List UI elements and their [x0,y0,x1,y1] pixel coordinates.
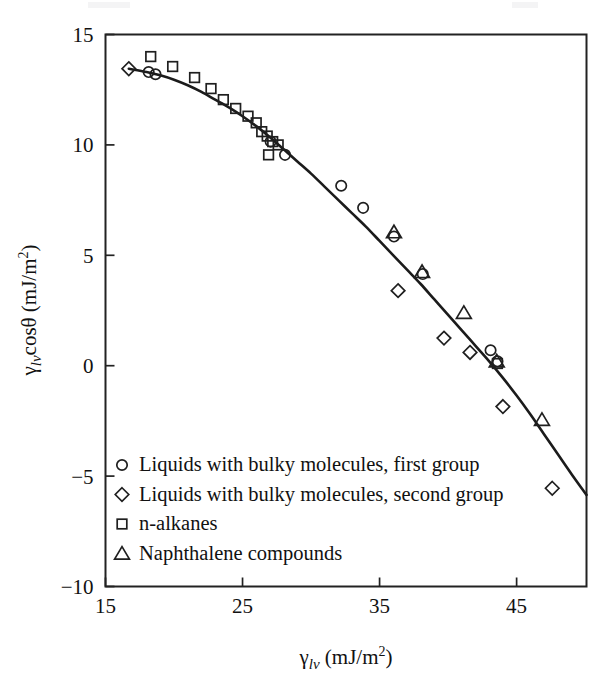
data-point-diamond [545,481,559,495]
scan-artifact-left [88,2,130,8]
legend-item: Naphthalene compounds [115,542,343,565]
y-axis-ticks [106,35,115,587]
data-point-circle [485,345,495,355]
data-point-square [168,62,178,72]
data-point-square [264,150,274,160]
series-square [146,52,502,369]
legend-label: Naphthalene compounds [139,542,342,565]
data-point-square [146,52,156,62]
series-triangle [387,225,550,425]
data-point-circle [336,181,346,191]
x-axis-ticks [106,578,517,587]
data-point-square [190,73,200,83]
x-tick-label: 45 [506,594,527,618]
x-tick-label: 15 [95,594,116,618]
fit-curve-line [129,69,587,495]
chart-canvas: 15253545 151050−5−10 Liquids with bulky … [0,0,614,679]
y-tick-label: 15 [73,23,94,47]
legend-item: n-alkanes [117,512,217,534]
legend-item: Liquids with bulky molecules, second gro… [115,483,503,506]
data-point-triangle [456,306,471,318]
legend-marker-diamond-icon [115,488,129,502]
legend-marker-triangle-icon [115,547,130,559]
y-axis-label: γlvcosθ (mJ/m2) [16,244,44,376]
series-diamond [122,62,559,495]
data-point-square [206,84,216,94]
x-axis-tick-labels: 15253545 [95,594,527,618]
data-point-diamond [463,346,477,360]
scatter-chart-figure: 15253545 151050−5−10 Liquids with bulky … [0,0,614,679]
legend-label: Liquids with bulky molecules, first grou… [139,453,480,476]
y-axis-tick-labels: 151050−5−10 [61,23,94,599]
legend-label: Liquids with bulky molecules, second gro… [139,483,503,506]
data-point-diamond [437,331,451,345]
y-tick-label: 5 [83,244,94,268]
x-tick-label: 25 [232,594,253,618]
data-point-circle [358,203,368,213]
legend-label: n-alkanes [139,512,218,534]
y-tick-label: −5 [71,465,93,489]
series-circle [143,67,502,367]
legend-item: Liquids with bulky molecules, first grou… [117,453,480,476]
x-axis-label: γlv (mJ/m2) [298,644,392,672]
x-tick-label: 35 [369,594,390,618]
data-point-markers [122,52,559,495]
y-tick-label: 10 [73,133,94,157]
y-tick-label: −10 [61,575,94,599]
data-point-diamond [391,284,405,298]
chart-legend: Liquids with bulky molecules, first grou… [115,453,504,565]
legend-marker-square-icon [117,519,127,529]
data-point-diamond [496,400,510,414]
scan-artifact-right [512,2,538,8]
legend-marker-circle-icon [117,460,127,470]
y-tick-label: 0 [83,354,94,378]
